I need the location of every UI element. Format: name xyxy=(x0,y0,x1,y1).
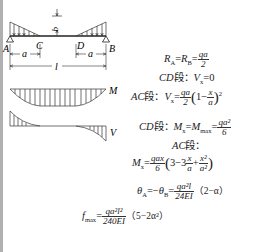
cd-moment-formula: CD段：Mx=Mmax=qa²6 xyxy=(139,118,231,138)
cd-shear-formula: CD段：Vx=0 xyxy=(159,73,214,86)
reactions-formula: RA=RB=qa2 xyxy=(164,50,209,70)
ac-shear-formula: AC段：Vx=qa2(1−xa)2 xyxy=(131,88,222,108)
formula-block: RA=RB=qa2 CD段：Vx=0 AC段：Vx=qa2(1−xa)2 CD段… xyxy=(0,0,264,252)
ac-label: AC段： xyxy=(172,141,205,152)
ac-moment-formula: Mx=qax6(3−3xa+x²a²) xyxy=(132,154,213,174)
deflection-formula: fmax=qa²l²240EI（5−2α²） xyxy=(82,207,169,227)
rotation-formula: θA=−θB=qa²l24EI（2−α） xyxy=(137,182,229,202)
